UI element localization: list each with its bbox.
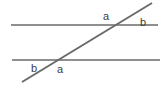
angle-label-lower-right: a <box>57 64 63 75</box>
angle-label-upper-right: b <box>140 17 146 28</box>
geometry-canvas <box>0 0 165 85</box>
parallel-lines-transversal-diagram: a b b a <box>0 0 165 85</box>
angle-label-upper-left: a <box>103 11 109 22</box>
transversal-line <box>22 3 152 82</box>
angle-label-lower-left: b <box>31 63 37 74</box>
